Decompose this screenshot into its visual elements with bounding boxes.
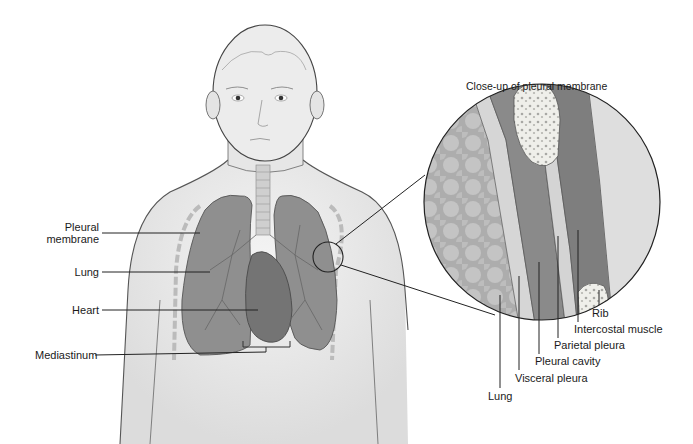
head [206,25,324,161]
label-lung: Lung [40,266,99,278]
label-visceral-pleura: Visceral pleura [515,372,588,384]
label-intercostal-muscle: Intercostal muscle [574,323,663,335]
label-pleural-membrane-line2: membrane [40,233,99,245]
label-pleural-cavity: Pleural cavity [535,355,600,367]
anatomy-illustration [0,0,693,444]
label-heart: Heart [40,304,99,316]
label-parietal-pleura: Parietal pleura [554,339,625,351]
label-rib: Rib [592,307,609,319]
label-mediastinum: Mediastinum [35,349,97,361]
label-closeup-lung: Lung [488,390,512,402]
closeup-title: Close-up of pleural membrane [466,80,607,92]
label-pleural-membrane-line1: Pleural [40,221,99,233]
pleural-closeup [420,80,670,330]
trachea [256,165,270,235]
label-pleural-membrane: Pleural membrane [40,221,99,245]
pleural-anatomy-diagram: Close-up of pleural membrane Pleural mem… [0,0,693,444]
